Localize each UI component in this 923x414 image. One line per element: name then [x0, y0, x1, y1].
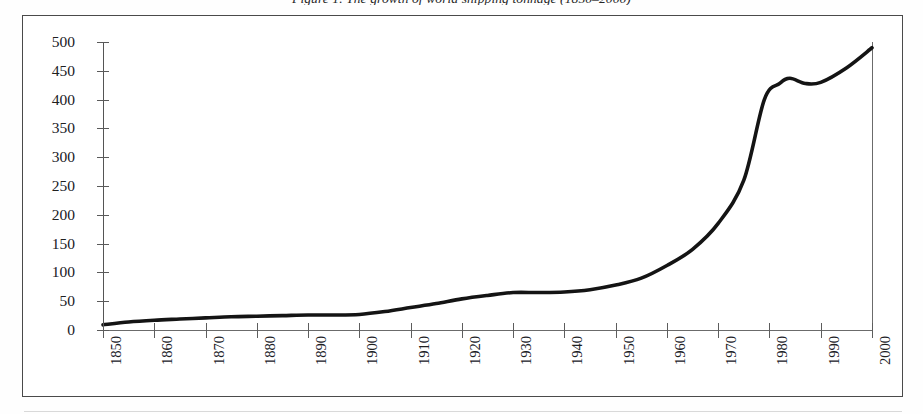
- x-tick-mark: [308, 323, 309, 338]
- x-tick-mark: [769, 323, 770, 338]
- x-tick-label: 1890: [314, 336, 329, 365]
- x-tick-mark: [667, 323, 668, 338]
- y-tick-mark: [97, 42, 109, 43]
- y-tick-label: 0: [31, 322, 75, 338]
- x-tick-label: 1860: [160, 336, 175, 365]
- x-tick-mark: [359, 323, 360, 338]
- plot-right-border: [872, 42, 873, 331]
- chart-page: Figure 1. The growth of world shipping t…: [0, 0, 923, 414]
- y-tick-label: 100: [31, 264, 75, 280]
- y-tick-mark: [97, 244, 109, 245]
- y-tick-mark: [97, 215, 109, 216]
- y-tick-mark: [97, 157, 109, 158]
- x-tick-mark: [411, 323, 412, 338]
- x-tick-label: 1920: [468, 336, 483, 365]
- x-tick-label: 1910: [417, 336, 432, 365]
- y-tick-mark: [97, 301, 109, 302]
- y-tick-label: 450: [31, 63, 75, 79]
- figure-frame: [22, 15, 903, 397]
- x-tick-mark: [513, 323, 514, 338]
- y-tick-label: 250: [31, 178, 75, 194]
- x-tick-label: 1870: [212, 336, 227, 365]
- x-tick-mark: [564, 323, 565, 338]
- y-tick-mark: [97, 272, 109, 273]
- x-tick-mark: [872, 323, 873, 338]
- x-tick-label: 1970: [724, 336, 739, 365]
- y-tick-label: 300: [31, 149, 75, 165]
- x-tick-label: 1900: [365, 336, 380, 365]
- y-tick-mark: [97, 100, 109, 101]
- scan-artifact: [24, 411, 902, 412]
- x-axis-line: [103, 330, 873, 331]
- x-tick-mark: [718, 323, 719, 338]
- x-tick-label: 2000: [878, 336, 893, 365]
- x-tick-mark: [103, 323, 104, 338]
- x-tick-mark: [616, 323, 617, 338]
- y-tick-mark: [97, 71, 109, 72]
- y-tick-mark: [97, 128, 109, 129]
- x-tick-label: 1980: [775, 336, 790, 365]
- x-tick-label: 1940: [570, 336, 585, 365]
- y-tick-label: 500: [31, 34, 75, 50]
- y-tick-label: 200: [31, 207, 75, 223]
- y-tick-label: 400: [31, 92, 75, 108]
- x-tick-mark: [206, 323, 207, 338]
- y-axis: 500450400350300250200150100500: [0, 0, 103, 414]
- x-tick-mark: [257, 323, 258, 338]
- figure-caption: Figure 1. The growth of world shipping t…: [0, 0, 923, 5]
- x-tick-label: 1960: [673, 336, 688, 365]
- x-tick-mark: [821, 323, 822, 338]
- x-tick-mark: [154, 323, 155, 338]
- x-tick-label: 1950: [622, 336, 637, 365]
- y-tick-label: 150: [31, 236, 75, 252]
- x-tick-label: 1880: [263, 336, 278, 365]
- x-tick-label: 1930: [519, 336, 534, 365]
- x-tick-mark: [462, 323, 463, 338]
- y-tick-label: 350: [31, 120, 75, 136]
- x-tick-label: 1850: [109, 336, 124, 365]
- x-tick-label: 1990: [827, 336, 842, 365]
- y-tick-label: 50: [31, 293, 75, 309]
- y-tick-mark: [97, 186, 109, 187]
